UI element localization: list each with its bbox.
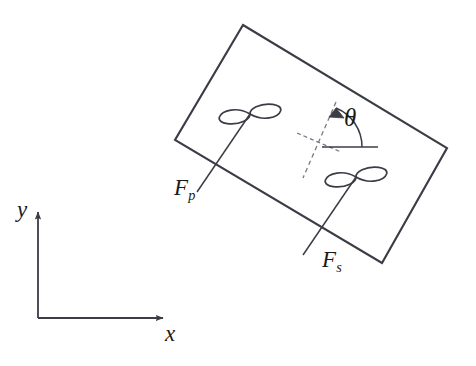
body-cross-axis-dashed-line xyxy=(297,133,341,152)
label-axis-x: x xyxy=(165,322,175,345)
heading-angle-marker xyxy=(297,102,378,178)
label-force-port: Fp xyxy=(174,176,195,199)
propeller-starboard-blade-lower xyxy=(354,159,388,189)
propeller-port-blade-upper xyxy=(217,101,251,131)
hull-outline xyxy=(175,25,447,263)
label-force-port-subscript: p xyxy=(188,187,195,203)
label-force-starboard-subscript: s xyxy=(336,259,342,275)
propeller-port-blade-lower xyxy=(248,96,282,126)
propeller-port xyxy=(197,86,283,192)
propeller-starboard-blade-upper xyxy=(323,164,357,194)
label-axis-y: y xyxy=(17,198,27,221)
diagram-svg xyxy=(0,0,476,366)
figure-canvas: Fp Fs θ x y xyxy=(0,0,476,366)
propeller-starboard xyxy=(303,149,389,255)
label-heading-angle: θ xyxy=(344,105,356,130)
label-force-port-symbol: F xyxy=(174,175,188,200)
body-axis-dashed-line xyxy=(303,102,336,178)
coordinate-frame xyxy=(38,212,163,318)
label-force-starboard-symbol: F xyxy=(322,247,336,272)
label-force-starboard: Fs xyxy=(322,248,342,271)
